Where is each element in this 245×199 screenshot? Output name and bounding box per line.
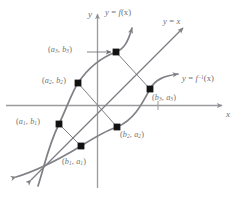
y-axis-label: y [88,10,92,19]
point-b1-a1 [78,143,85,150]
identity-line-label: y = x [163,17,180,26]
point-label-b3-a3: (b3, a3) [152,94,176,103]
inverse-function-graph-figure: y x y = f(x) y = x y = f−1(x) (a3, b3) (… [0,0,245,199]
point-label-b2-a2: (b2, a2) [120,131,144,140]
point-label-b1-a1: (b1, a1) [62,158,86,167]
point-a2-b2 [75,80,82,87]
graph-canvas [0,0,245,199]
point-a3-b3 [113,49,120,56]
point-label-a3-b3: (a3, b3) [48,46,72,55]
point-label-a1-b1: (a1, b1) [16,118,40,127]
point-b3-a3 [147,86,154,93]
point-label-a2-b2: (a2, b2) [42,77,66,86]
point-a1-b1 [56,121,63,128]
inverse-curve-label: y = f−1(x) [182,74,214,83]
reflection-segment-3 [116,52,150,89]
x-axis-label: x [226,110,230,119]
function-curve-label: y = f(x) [105,8,131,17]
